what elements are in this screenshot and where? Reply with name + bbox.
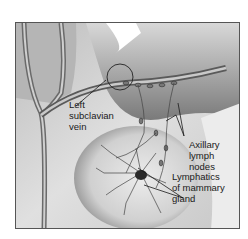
illustration-frame: Left subclavian vein Axillary lymph node… bbox=[15, 22, 240, 229]
label-lymphatics-mammary-gland: Lymphatics of mammary gland bbox=[172, 171, 225, 204]
label-left-subclavian-vein: Left subclavian vein bbox=[69, 99, 114, 132]
label-axillary-lymph-nodes: Axillary lymph nodes bbox=[189, 139, 220, 172]
